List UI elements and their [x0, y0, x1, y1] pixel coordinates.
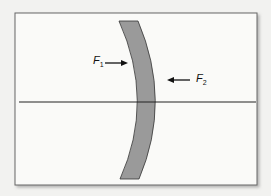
diagram-canvas: F1 F2: [0, 0, 271, 196]
